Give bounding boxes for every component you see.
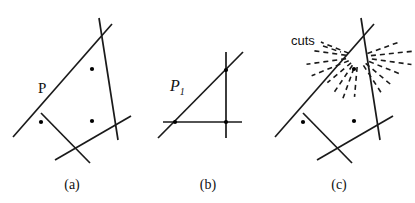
cut-ray-9 [367, 42, 399, 54]
panel-a-interior-point-2 [39, 120, 43, 124]
panel-c-interior-point-1 [352, 67, 356, 71]
polygon-label-p1-base: P [170, 77, 180, 94]
caption-panel-a: (a) [64, 177, 80, 193]
panel-c-edge-right [361, 18, 380, 140]
cut-ray-1 [355, 67, 358, 97]
polygon-label-p: P [38, 80, 46, 97]
panel-a-edge-right [99, 18, 118, 140]
dashed-cut-fan [307, 42, 414, 98]
cut-ray-10 [371, 51, 414, 55]
figure-container: P P1 cuts (a) (b) (c) [0, 0, 415, 203]
panel-a-edge-lower-left [41, 113, 90, 163]
panel-a-interior-point-3 [90, 119, 94, 123]
cut-ray-7 [310, 50, 346, 55]
cut-ray-8 [321, 42, 349, 53]
panel-b-vertex-point-1 [224, 68, 228, 72]
panel-b-vertex-point-3 [224, 120, 228, 124]
panel-a-interior-point-1 [90, 67, 94, 71]
panel-c-interior-point-3 [352, 119, 356, 123]
panel-c-interior-point-2 [301, 120, 305, 124]
caption-panel-b: (b) [200, 177, 216, 193]
polygon-label-p1: P1 [170, 77, 185, 97]
cut-ray-12 [369, 62, 402, 75]
panel-b-vertex-point-2 [173, 120, 177, 124]
cuts-annotation-label: cuts [291, 33, 315, 48]
figure-drawing [0, 0, 415, 203]
caption-panel-c: (c) [331, 177, 347, 193]
panel-a-edge-upper-left [13, 24, 112, 137]
polygon-label-p1-subscript: 1 [180, 86, 185, 97]
cut-ray-2 [343, 68, 354, 98]
panel-c-edge-lower-left [303, 113, 352, 163]
cut-ray-11 [372, 59, 412, 65]
panel-a-geometry [13, 18, 131, 163]
panel-c-edge-upper-left [275, 24, 374, 137]
